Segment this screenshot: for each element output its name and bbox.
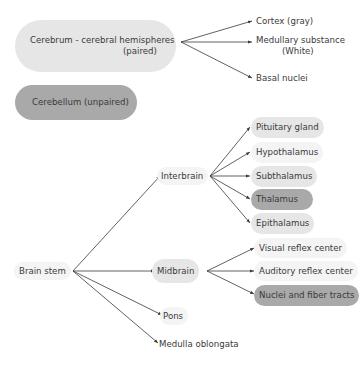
midbrain-label: Midbrain <box>157 266 194 277</box>
subthalamus-node: Subthalamus <box>251 166 317 187</box>
pons-node: Pons <box>160 307 188 325</box>
brain-stem-label: Brain stem <box>19 266 66 277</box>
visual-reflex-center-label: Visual reflex center <box>259 243 342 254</box>
auditory-reflex-center-label: Auditory reflex center <box>259 266 353 277</box>
cerebellum-node: Cerebellum (unpaired) <box>15 85 137 120</box>
medullary-substance-node: Medullary substance (White) <box>256 35 345 57</box>
medulla-oblongata-node: Medulla oblongata <box>159 337 239 351</box>
thalamus-node: Thalamus <box>251 189 313 210</box>
epithalamus-node: Epithalamus <box>251 213 314 234</box>
nuclei-fiber-tracts-label: Nuclei and fiber tracts <box>259 290 354 301</box>
visual-reflex-center-node: Visual reflex center <box>254 238 347 258</box>
pituitary-gland-label: Pituitary gland <box>256 122 319 133</box>
cortex-node: Cortex (gray) <box>256 14 313 28</box>
basal-nuclei-label: Basal nuclei <box>256 73 308 84</box>
hypothalamus-label: Hypothalamus <box>256 147 318 158</box>
pons-label: Pons <box>163 311 183 322</box>
interbrain-label: Interbrain <box>161 171 203 182</box>
basal-nuclei-node: Basal nuclei <box>256 71 308 85</box>
thalamus-label: Thalamus <box>256 194 298 205</box>
cerebrum-sublabel: (paired) <box>30 46 157 57</box>
cerebellum-label: Cerebellum (unpaired) <box>32 97 129 108</box>
brain-stem-node: Brain stem <box>14 262 71 280</box>
medullary-substance-sublabel: (White) <box>256 46 314 57</box>
midbrain-node: Midbrain <box>152 259 199 283</box>
subthalamus-label: Subthalamus <box>256 171 312 182</box>
medulla-oblongata-label: Medulla oblongata <box>159 339 239 350</box>
medullary-substance-label: Medullary substance <box>256 35 345 46</box>
pituitary-gland-node: Pituitary gland <box>251 117 324 138</box>
interbrain-node: Interbrain <box>157 167 208 185</box>
nuclei-fiber-tracts-node: Nuclei and fiber tracts <box>254 285 359 306</box>
cerebrum-label: Cerebrum - cerebral hemispheres <box>30 35 175 46</box>
auditory-reflex-center-node: Auditory reflex center <box>254 261 358 281</box>
cortex-label: Cortex (gray) <box>256 16 313 27</box>
hypothalamus-node: Hypothalamus <box>251 142 323 163</box>
epithalamus-label: Epithalamus <box>256 218 309 229</box>
cerebrum-node: Cerebrum - cerebral hemispheres (paired) <box>15 20 176 72</box>
